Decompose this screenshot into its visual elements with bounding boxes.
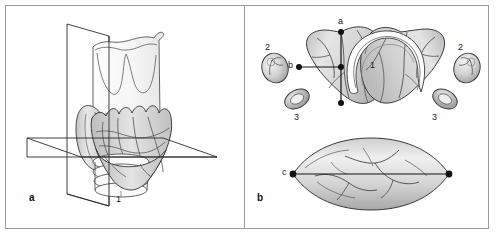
label-parathyroid-superior-left: 2: [265, 42, 270, 52]
panel-a-drawing: [0, 0, 245, 237]
label-parathyroid-superior-right: 2: [458, 42, 463, 52]
label-trachea-panel-b: 1: [370, 60, 375, 70]
label-parathyroid-inferior-right: 3: [432, 112, 437, 122]
axis-label-c: c: [282, 167, 287, 177]
panel-b-drawing: [245, 0, 497, 237]
panel-b: b 1 2 2 3 3 a b c: [245, 0, 497, 237]
label-trachea-panel-a: 1: [116, 194, 121, 204]
thyroid-cartilage: [93, 32, 164, 118]
axis-label-b: b: [288, 60, 293, 70]
parathyroid-superior-right: [450, 50, 484, 87]
label-parathyroid-inferior-left: 3: [294, 112, 299, 122]
parathyroid-inferior-left: [281, 85, 312, 113]
panel-a-letter: a: [29, 192, 35, 203]
parathyroid-inferior-right: [429, 85, 460, 113]
figure-root: a 1: [0, 0, 497, 237]
axis-label-a: a: [338, 16, 343, 26]
transverse-plane: [27, 138, 217, 157]
panel-b-letter: b: [257, 192, 263, 203]
panel-a: a 1: [0, 0, 245, 237]
parathyroid-superior-left: [258, 50, 292, 87]
